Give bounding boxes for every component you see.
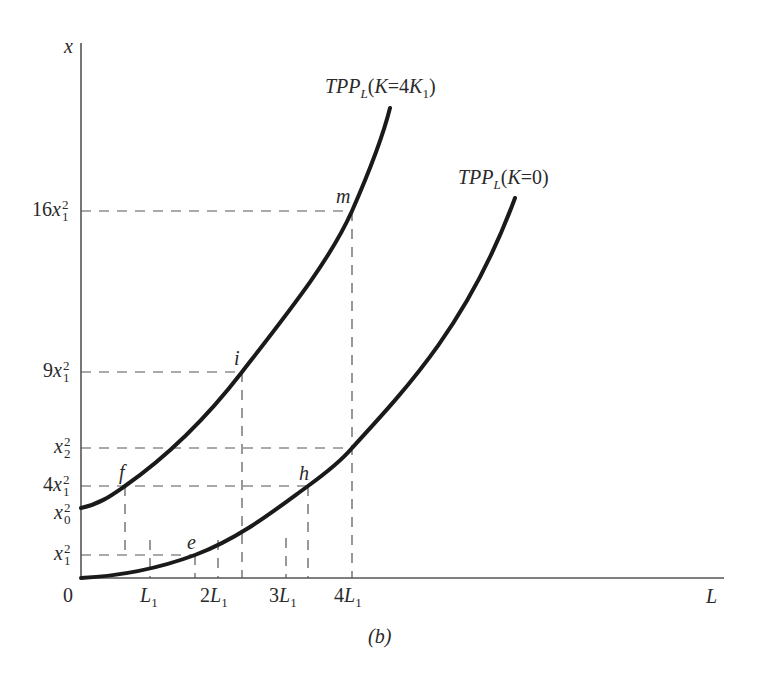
origin-label: 0 xyxy=(63,585,73,605)
point-label-e: e xyxy=(187,532,196,552)
x-axis-label: L xyxy=(706,586,717,606)
label-tpp-arg: (K=4K1) xyxy=(368,75,436,97)
label-tpp-base: TPP xyxy=(325,75,361,97)
figure-caption: (b) xyxy=(368,626,391,646)
point-label-m: m xyxy=(336,186,350,206)
y-axis-label: x xyxy=(64,36,73,56)
xtick-2L1: 2L1 xyxy=(200,585,228,605)
xtick-3L1: 3L1 xyxy=(269,585,297,605)
point-label-i: i xyxy=(234,348,240,368)
label-tpp-sub: L xyxy=(361,86,368,101)
chart-canvas xyxy=(0,0,761,680)
ytick-9x1sq: 9x21 xyxy=(43,360,69,384)
guide-lines xyxy=(81,211,352,578)
label-tpp-sub: L xyxy=(494,177,501,192)
label-tpp-base: TPP xyxy=(458,166,494,188)
ytick-16x1sq: 16x21 xyxy=(32,199,68,223)
point-label-h: h xyxy=(299,463,309,483)
ytick-x0sq: x20 xyxy=(54,502,70,526)
ytick-x2sq: x22 xyxy=(54,436,70,460)
xtick-4L1: 4L1 xyxy=(334,585,362,605)
ytick-4x1sq: 4x21 xyxy=(43,474,69,498)
ytick-x1sq: x21 xyxy=(54,543,70,567)
label-k-sub: 1 xyxy=(422,86,429,101)
curve-tpp-k4k1 xyxy=(81,108,390,508)
xtick-L1: L1 xyxy=(140,585,158,605)
label-tpp-k4k1: TPPL(K=4K1) xyxy=(325,76,436,96)
caption-text: (b) xyxy=(368,625,391,647)
label-tpp-k0: TPPL(K=0) xyxy=(458,167,549,187)
label-tpp-arg: (K=0) xyxy=(501,166,549,188)
curve-tpp-k0 xyxy=(81,198,515,578)
point-label-f: f xyxy=(119,462,125,482)
